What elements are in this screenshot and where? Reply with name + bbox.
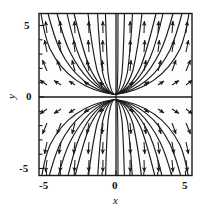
- phase-portrait-canvas: [0, 0, 207, 208]
- y-tick-label-0: 0: [26, 91, 32, 102]
- x-tick-label-0: 0: [112, 180, 118, 191]
- y-tick-label-5: 5: [24, 20, 30, 31]
- y-tick-label-neg5: -5: [19, 163, 28, 174]
- x-tick-label-neg5: -5: [39, 180, 48, 191]
- y-axis-title: y: [6, 94, 17, 99]
- x-axis-title: x: [113, 195, 118, 206]
- phase-portrait-figure: 5 0 -5 -5 0 5 x y: [0, 0, 207, 208]
- x-tick-label-5: 5: [182, 180, 188, 191]
